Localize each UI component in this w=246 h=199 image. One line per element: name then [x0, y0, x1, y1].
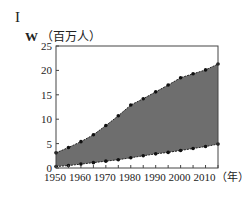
- filled-area: [56, 64, 218, 166]
- data-point: [129, 156, 133, 160]
- y-tick-label: 20: [41, 64, 53, 76]
- data-point: [117, 158, 121, 162]
- y-tick-label: 10: [41, 113, 53, 125]
- y-tick-label: 5: [47, 138, 53, 150]
- data-point: [191, 72, 195, 76]
- data-point: [117, 114, 121, 118]
- x-tick-label: 2010（年）: [194, 170, 246, 183]
- data-point: [92, 161, 96, 165]
- data-point: [166, 151, 170, 155]
- data-point: [141, 97, 145, 101]
- y-tick-label: 25: [41, 40, 53, 52]
- data-point: [154, 152, 158, 156]
- x-tick-label: 1950: [44, 171, 67, 183]
- data-point: [166, 83, 170, 87]
- data-point: [179, 76, 183, 80]
- x-tick-label: 1960: [69, 171, 92, 183]
- data-point: [104, 159, 108, 163]
- data-point: [154, 90, 158, 94]
- data-point: [67, 146, 71, 150]
- data-point: [204, 145, 208, 149]
- x-tick-label: 1980: [119, 171, 141, 183]
- y-tick-label: 15: [41, 89, 53, 101]
- data-point: [141, 154, 145, 158]
- data-point: [129, 103, 133, 107]
- data-point: [92, 133, 96, 137]
- data-point: [204, 68, 208, 72]
- data-point: [191, 147, 195, 151]
- data-point: [179, 149, 183, 153]
- data-point: [79, 140, 83, 144]
- x-tick-label: 2000: [169, 171, 192, 183]
- x-tick-label: 1990: [144, 171, 167, 183]
- area-chart: 05101520251950196019701980199020002010（年…: [0, 0, 246, 199]
- x-tick-label: 1970: [94, 171, 117, 183]
- data-point: [104, 124, 108, 128]
